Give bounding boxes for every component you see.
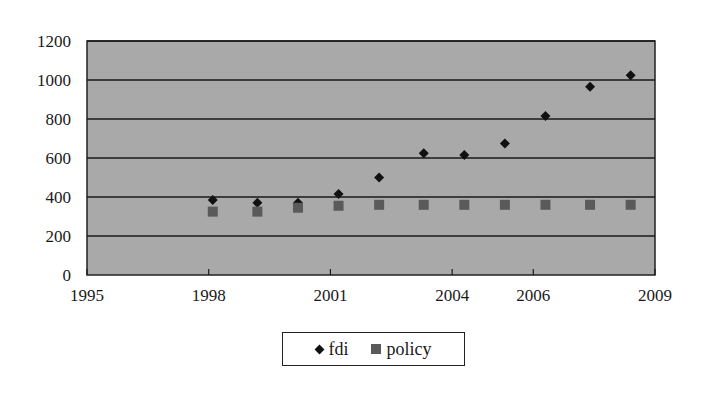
y-tick-label: 400 [46, 188, 72, 207]
legend-item-policy: policy [371, 339, 432, 360]
policy-point-square-icon [419, 200, 429, 210]
x-tick-label: 2004 [435, 286, 470, 305]
square-marker-icon [371, 344, 381, 354]
x-tick-label: 2001 [313, 286, 347, 305]
y-tick-label: 1000 [37, 71, 71, 90]
legend-item-fdi: fdi [316, 339, 349, 360]
legend-label-policy: policy [387, 339, 432, 360]
y-tick-label: 0 [63, 266, 72, 285]
y-tick-label: 200 [46, 227, 72, 246]
x-tick-label: 1995 [70, 286, 104, 305]
scatter-chart: 020040060080010001200 199519982001200420… [0, 0, 714, 330]
x-tick-label: 2006 [516, 286, 550, 305]
policy-point-square-icon [585, 200, 595, 210]
y-tick-label: 800 [46, 110, 72, 129]
legend-label-fdi: fdi [329, 339, 349, 360]
policy-point-square-icon [334, 201, 344, 211]
policy-point-square-icon [540, 200, 550, 210]
x-tick-label: 2009 [638, 286, 672, 305]
policy-point-square-icon [252, 207, 262, 217]
policy-point-square-icon [459, 200, 469, 210]
y-axis: 020040060080010001200 [37, 32, 71, 285]
policy-point-square-icon [293, 203, 303, 213]
policy-point-square-icon [626, 200, 636, 210]
policy-point-square-icon [374, 200, 384, 210]
y-tick-label: 600 [46, 149, 72, 168]
diamond-marker-icon [314, 344, 324, 354]
policy-point-square-icon [500, 200, 510, 210]
policy-point-square-icon [208, 207, 218, 217]
y-tick-label: 1200 [37, 32, 71, 51]
x-tick-label: 1998 [192, 286, 226, 305]
plot-area [87, 41, 655, 275]
chart-legend: fdi policy [282, 332, 465, 366]
